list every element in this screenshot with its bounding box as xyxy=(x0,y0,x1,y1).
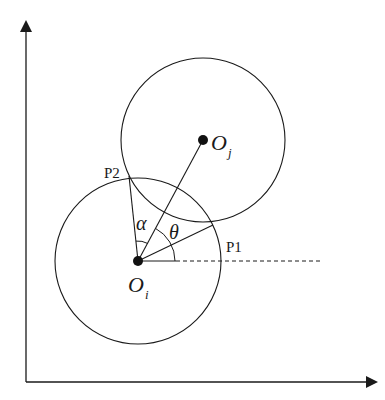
label-theta: θ xyxy=(169,221,179,243)
label-p2: P2 xyxy=(104,165,120,181)
label-oi: Oi xyxy=(128,272,149,302)
center-point-oi xyxy=(133,256,143,266)
alpha-arc xyxy=(136,241,148,243)
diagram-canvas: Oj Oi P2 P1 α θ xyxy=(0,0,385,400)
label-oj: Oj xyxy=(211,130,232,160)
center-point-oj xyxy=(198,135,208,145)
label-p1: P1 xyxy=(226,239,242,255)
label-alpha: α xyxy=(136,212,147,234)
